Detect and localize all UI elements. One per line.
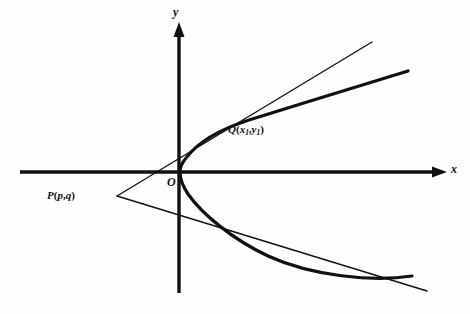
y-axis-label: y xyxy=(173,6,178,18)
x-axis xyxy=(20,167,447,178)
x-axis-label: x xyxy=(451,163,457,175)
point-p-label: P(p,q) xyxy=(47,190,75,201)
parabola-curve xyxy=(180,71,412,278)
point-p-close-paren: ) xyxy=(71,189,75,201)
y-axis-arrowhead-icon xyxy=(174,22,185,37)
parabola-tangent-figure: y x O Q(x1,y1) P(p,q) xyxy=(0,0,470,314)
y-axis xyxy=(174,22,185,293)
figure-canvas xyxy=(0,0,470,314)
x-axis-arrowhead-icon xyxy=(432,167,447,178)
parabola-upper-branch xyxy=(180,71,408,172)
parabola-lower-branch xyxy=(180,172,412,278)
tangent-line-lower xyxy=(117,196,427,291)
point-q-name: Q xyxy=(228,123,236,135)
point-q-close-paren: ) xyxy=(260,123,264,135)
point-q-label: Q(x1,y1) xyxy=(228,124,264,137)
point-p-name: P xyxy=(47,189,54,201)
origin-label: O xyxy=(167,176,176,188)
